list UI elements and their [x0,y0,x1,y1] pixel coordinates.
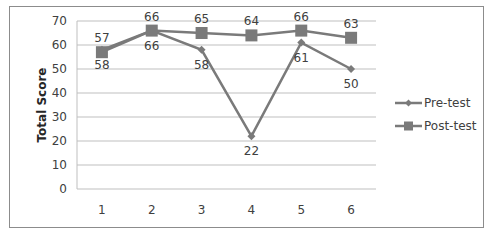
y-tick-label: 0 [59,182,67,196]
data-label: 66 [294,10,309,24]
x-tick-label: 5 [297,203,305,217]
y-tick-label: 70 [52,14,67,28]
x-tick-label: 1 [98,203,106,217]
diamond-icon [405,100,412,107]
y-tick-label: 20 [52,134,67,148]
legend-label: Pre-test [424,96,471,110]
y-tick-label: 60 [52,38,67,52]
square-marker [196,27,208,39]
y-axis-ticks: 010203040506070 [52,14,67,196]
series-post-test [96,25,357,59]
legend-item-pre-test: Pre-test [395,96,471,110]
data-label: 58 [194,58,209,72]
legend: Pre-testPost-test [395,96,477,133]
square-icon [404,122,413,131]
data-label: 66 [144,10,159,24]
series-pre-test [98,27,355,141]
data-label: 65 [194,12,209,26]
series-line [102,31,351,137]
series-lines [96,25,357,141]
y-tick-label: 50 [52,62,67,76]
legend-label: Post-test [424,119,477,133]
x-tick-label: 3 [198,203,206,217]
y-tick-label: 30 [52,110,67,124]
y-axis-title: Total Score [35,67,49,142]
x-tick-label: 2 [148,203,156,217]
square-marker [96,46,108,58]
square-marker [295,25,307,37]
data-label: 66 [144,39,159,53]
data-label: 64 [244,14,259,28]
y-tick-label: 40 [52,86,67,100]
data-label: 57 [94,31,109,45]
line-chart: 010203040506070 123456 Total Score 58665… [0,0,488,235]
y-tick-label: 10 [52,158,67,172]
x-tick-label: 6 [347,203,355,217]
data-label: 50 [343,77,358,91]
data-label: 63 [343,17,358,31]
data-label: 58 [94,58,109,72]
legend-item-post-test: Post-test [395,119,477,133]
data-labels: 586658226150576665646663 [94,10,358,159]
x-tick-label: 4 [248,203,256,217]
square-marker [245,29,257,41]
square-marker [146,25,158,37]
data-label: 61 [294,51,309,65]
x-axis-ticks: 123456 [98,203,355,217]
square-marker [345,32,357,44]
data-label: 22 [244,144,259,158]
gridlines [77,21,376,189]
